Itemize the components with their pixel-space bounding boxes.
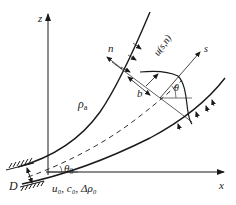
jet-diagram: z x n u(s,n) s ρa b θ θ0 D u₀, c₀, Δρ₀ [0,0,236,205]
nozzle-diameter-label: D [9,180,18,192]
ambient-density-label: ρa [78,98,87,113]
s-label: s [204,44,208,54]
lower-jet-boundary [22,78,225,184]
upper-jet-boundary [18,12,150,167]
initial-angle-marker [48,166,78,172]
initial-angle-label: θ0 [64,163,73,176]
half-width-label: b [137,88,143,99]
rho-subscript: a [84,103,88,112]
diagram-graphics [0,0,236,205]
entrainment-arrows-upper [121,43,141,72]
s-axis-arrow [160,52,200,98]
theta-label: θ [174,83,179,93]
entrainment-arrows-lower [178,100,214,130]
theta0-subscript: 0 [69,167,73,176]
initial-conditions-label: u₀, c₀, Δρ₀ [52,183,97,194]
jet-centerline [28,80,182,177]
n-axis-arrow [107,57,122,69]
x-axis-label: x [219,180,224,191]
z-axis-label: z [38,13,42,24]
velocity-arrow [146,74,158,86]
n-label: n [108,43,114,54]
